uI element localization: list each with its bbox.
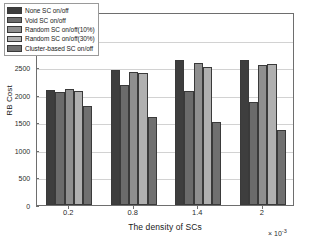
bar <box>267 64 276 205</box>
legend-swatch-icon <box>7 7 22 14</box>
legend-item-1[interactable]: Void SC on/off <box>7 15 95 24</box>
x-axis-tick-label: 2 <box>260 208 264 217</box>
x-axis-tick-mark <box>197 206 198 209</box>
legend-item-label: None SC on/off <box>25 7 69 14</box>
legend-item-label: Random SC on/off(30%) <box>25 35 95 42</box>
y-axis-tick-label: 2000 <box>15 92 30 99</box>
bar <box>148 117 157 205</box>
legend-swatch-icon <box>7 17 22 24</box>
y-axis-tick-mark <box>36 96 39 97</box>
y-axis-tick-mark <box>36 151 39 152</box>
y-axis-tick-label: 0 <box>26 203 30 210</box>
y-axis-tick-mark <box>36 206 39 207</box>
bar <box>65 89 74 205</box>
y-axis-tick-label: 1500 <box>15 120 30 127</box>
y-axis-label: RB Cost <box>5 66 14 136</box>
bar <box>212 122 221 205</box>
bar <box>111 70 120 205</box>
legend-item-label: Void SC on/off <box>25 17 66 24</box>
chart-figure: 0500100015002000250030003500 RB Cost 0.2… <box>0 0 311 249</box>
bar <box>258 65 267 205</box>
legend-item-0[interactable]: None SC on/off <box>7 6 95 15</box>
y-axis-tick-mark <box>36 178 39 179</box>
y-axis-tick-label: 1000 <box>15 147 30 154</box>
x-axis-multiplier-exponent: -3 <box>282 228 287 234</box>
legend-swatch-icon <box>7 45 22 52</box>
y-axis-tick-mark <box>36 68 39 69</box>
legend: None SC on/offVoid SC on/offRandom SC on… <box>4 3 99 56</box>
x-axis-tick-labels: 0.20.81.42 <box>36 208 294 220</box>
bar <box>175 60 184 205</box>
bar <box>129 72 138 205</box>
x-axis-tick-label: 0.8 <box>128 208 138 217</box>
x-axis-tick-label: 0.2 <box>63 208 73 217</box>
y-axis-tick-mark <box>36 123 39 124</box>
bar <box>203 67 212 205</box>
bar <box>249 102 258 205</box>
x-axis-tick-mark <box>262 206 263 209</box>
bar <box>240 60 249 205</box>
x-axis-tick-mark <box>68 206 69 209</box>
bar <box>138 73 147 205</box>
bar <box>46 90 55 205</box>
legend-item-label: Random SC on/off(10%) <box>25 26 95 33</box>
x-axis-tick-label: 1.4 <box>192 208 202 217</box>
legend-swatch-icon <box>7 36 22 43</box>
x-axis-label: The density of SCs <box>36 222 294 232</box>
legend-item-4[interactable]: Cluster-based SC on/off <box>7 44 95 53</box>
bar <box>55 92 64 205</box>
bar <box>277 130 286 205</box>
bar <box>120 85 129 205</box>
bar <box>194 63 203 205</box>
legend-item-3[interactable]: Random SC on/off(30%) <box>7 34 95 43</box>
y-axis-tick-label: 2500 <box>15 65 30 72</box>
legend-swatch-icon <box>7 26 22 33</box>
bar <box>184 91 193 205</box>
bar <box>83 106 92 205</box>
x-axis-multiplier: × 10-3 <box>268 228 287 237</box>
y-axis-tick-label: 500 <box>19 175 30 182</box>
legend-item-2[interactable]: Random SC on/off(10%) <box>7 25 95 34</box>
x-axis-tick-mark <box>133 206 134 209</box>
legend-item-label: Cluster-based SC on/off <box>25 45 93 52</box>
bar <box>74 91 83 205</box>
